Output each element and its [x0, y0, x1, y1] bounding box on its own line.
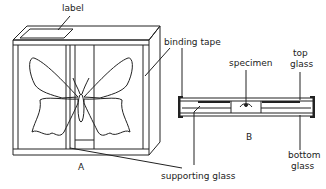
- display-box: [13, 26, 160, 155]
- bottom-glass-callout-1: bottom: [288, 150, 321, 160]
- top-glass-callout-2: glass: [290, 59, 313, 69]
- top-glass-callout-1: top: [293, 48, 308, 58]
- bottom-glass-callout-2: glass: [291, 161, 314, 171]
- supporting-glass-callout: supporting glass: [161, 171, 235, 181]
- binding-tape-callout: binding tape: [164, 37, 221, 47]
- butterfly: [30, 58, 133, 135]
- caption-b: B: [246, 132, 252, 142]
- caption-a: A: [78, 162, 84, 172]
- label-card: [20, 29, 73, 38]
- label-callout: label: [62, 3, 84, 13]
- diagram-canvas: [0, 0, 326, 189]
- specimen-callout: specimen: [229, 58, 272, 68]
